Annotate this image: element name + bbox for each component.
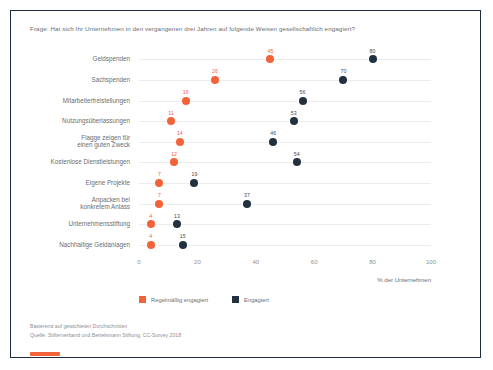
data-point[interactable] xyxy=(179,241,187,249)
grid-line xyxy=(139,204,431,205)
grid-line xyxy=(139,59,431,60)
chart-footnotes: Basierend auf gewichteten Durchschnitten… xyxy=(30,322,181,340)
legend-item-engagiert[interactable]: Engagiert xyxy=(232,296,269,303)
data-point-value-label: 56 xyxy=(300,89,306,95)
data-point-value-label: 80 xyxy=(370,48,376,54)
data-point[interactable] xyxy=(211,76,219,84)
chart-question-title: Frage: Hat sich Ihr Unternehmen in den v… xyxy=(30,25,355,32)
orange-bar-logo-icon xyxy=(30,352,60,356)
category-label: Anpacken bei konkretem Anlass xyxy=(15,196,130,211)
data-point-value-label: 19 xyxy=(191,171,197,177)
data-point[interactable] xyxy=(167,117,175,125)
data-point-value-label: 54 xyxy=(294,151,300,157)
category-label: Sachspenden xyxy=(15,76,130,84)
data-point[interactable] xyxy=(155,179,163,187)
data-point[interactable] xyxy=(170,158,178,166)
category-label: Nachhaltige Geldanlagen xyxy=(15,241,130,249)
category-label: Unternehmensstiftung xyxy=(15,220,130,228)
data-point[interactable] xyxy=(293,158,301,166)
data-point-value-label: 13 xyxy=(174,213,180,219)
legend-swatch-icon xyxy=(232,296,239,303)
data-point[interactable] xyxy=(190,179,198,187)
data-point-value-label: 26 xyxy=(212,68,218,74)
data-point[interactable] xyxy=(243,200,251,208)
legend-label: Engagiert xyxy=(244,297,269,303)
data-point-value-label: 45 xyxy=(267,48,273,54)
footnote-source: Quelle: Stifterverband und Bertelsmann S… xyxy=(30,331,181,340)
plot-area: GeldspendenSachspendenMitarbeiterfreiste… xyxy=(139,49,431,255)
grid-line xyxy=(139,224,431,225)
grid-line xyxy=(139,183,431,184)
data-point[interactable] xyxy=(339,76,347,84)
x-axis-tick-label: 40 xyxy=(252,259,259,265)
data-point-value-label: 15 xyxy=(180,233,186,239)
grid-line xyxy=(139,121,431,122)
category-label: Nutzungsüberlassungen xyxy=(15,117,130,125)
chart-frame: Frage: Hat sich Ihr Unternehmen in den v… xyxy=(10,10,481,358)
data-point-value-label: 12 xyxy=(171,151,177,157)
x-axis-tick-label: 20 xyxy=(194,259,201,265)
data-point[interactable] xyxy=(155,200,163,208)
data-point-value-label: 4 xyxy=(149,213,152,219)
category-label: Mitarbeiterfreistellungen xyxy=(15,97,130,105)
data-point-value-label: 7 xyxy=(158,192,161,198)
category-label: Flagge zeigen für einen guten Zweck xyxy=(15,134,130,149)
category-label: Eigene Projekte xyxy=(15,179,130,187)
x-axis-tick-label: 80 xyxy=(369,259,376,265)
data-point-value-label: 11 xyxy=(168,110,174,116)
legend-label: Regelmäßig engagiert xyxy=(151,297,208,303)
data-point[interactable] xyxy=(269,138,277,146)
chart-legend: Regelmäßig engagiert Engagiert xyxy=(139,296,269,303)
x-axis-ticks: 020406080100 xyxy=(139,259,431,273)
x-axis-title: % der Unternehmen xyxy=(11,277,431,283)
data-point[interactable] xyxy=(369,55,377,63)
x-axis-tick-label: 100 xyxy=(426,259,436,265)
data-point[interactable] xyxy=(290,117,298,125)
data-point[interactable] xyxy=(299,97,307,105)
x-axis-tick-label: 60 xyxy=(311,259,318,265)
data-point[interactable] xyxy=(176,138,184,146)
data-point[interactable] xyxy=(173,220,181,228)
data-point[interactable] xyxy=(182,97,190,105)
data-point-value-label: 16 xyxy=(183,89,189,95)
x-axis-tick-label: 0 xyxy=(137,259,140,265)
category-label: Geldspenden xyxy=(15,56,130,64)
data-point-value-label: 7 xyxy=(158,171,161,177)
data-point-value-label: 46 xyxy=(270,130,276,136)
data-point-value-label: 70 xyxy=(340,68,346,74)
data-point[interactable] xyxy=(266,55,274,63)
legend-swatch-icon xyxy=(139,296,146,303)
data-point[interactable] xyxy=(147,241,155,249)
grid-line xyxy=(139,162,431,163)
grid-line xyxy=(139,80,431,81)
data-point[interactable] xyxy=(147,220,155,228)
footnote-method: Basierend auf gewichteten Durchschnitten xyxy=(30,322,181,331)
category-label: Kostenlose Dienstleistungen xyxy=(15,159,130,167)
data-point-value-label: 37 xyxy=(244,192,250,198)
data-point-value-label: 4 xyxy=(149,233,152,239)
data-point-value-label: 14 xyxy=(177,130,183,136)
legend-item-regelmaessig-engagiert[interactable]: Regelmäßig engagiert xyxy=(139,296,208,303)
data-point-value-label: 53 xyxy=(291,110,297,116)
